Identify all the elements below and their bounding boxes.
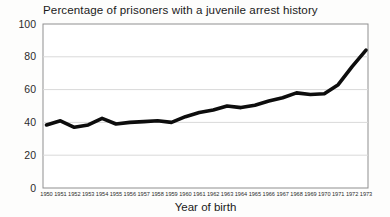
x-axis-tick-label: 1966	[263, 191, 275, 197]
y-axis-tick-label: 60	[24, 83, 36, 95]
x-axis-tick-label: 1956	[124, 191, 136, 197]
x-axis-tick-label: 1972	[346, 191, 358, 197]
x-axis-tick-label: 1962	[207, 191, 219, 197]
y-axis-tick-label: 0	[30, 182, 36, 194]
y-axis-tick-label: 40	[24, 116, 36, 128]
y-axis-tick-label: 20	[24, 149, 36, 161]
x-axis-tick-label: 1954	[96, 191, 108, 197]
x-axis-tick-label: 1961	[193, 191, 205, 197]
x-axis-tick-label: 1964	[235, 191, 247, 197]
x-axis-tick-label: 1959	[165, 191, 177, 197]
x-axis-title: Year of birth	[43, 201, 368, 213]
x-axis-tick-label: 1971	[332, 191, 344, 197]
x-axis-tick-label: 1963	[221, 191, 233, 197]
x-axis-tick-label: 1955	[110, 191, 122, 197]
x-axis-tick-label: 1968	[290, 191, 302, 197]
plot-canvas: 0204060801001950195119521953195419551956…	[0, 0, 390, 217]
x-axis-tick-label: 1950	[40, 191, 52, 197]
plot-area	[43, 24, 368, 188]
y-axis-tick-label: 100	[18, 18, 36, 30]
x-axis-tick-label: 1953	[82, 191, 94, 197]
x-axis-tick-label: 1957	[138, 191, 150, 197]
x-axis-tick-label: 1960	[179, 191, 191, 197]
x-axis-tick-label: 1965	[249, 191, 261, 197]
x-axis-tick-label: 1952	[68, 191, 80, 197]
x-axis-tick-label: 1973	[360, 191, 372, 197]
x-axis-tick-label: 1951	[54, 191, 66, 197]
x-axis-tick-label: 1958	[151, 191, 163, 197]
x-axis-tick-label: 1970	[318, 191, 330, 197]
x-axis-tick-label: 1967	[276, 191, 288, 197]
y-axis-tick-label: 80	[24, 50, 36, 62]
juvenile-arrest-chart: Percentage of prisoners with a juvenile …	[0, 0, 390, 217]
x-axis-tick-label: 1969	[304, 191, 316, 197]
